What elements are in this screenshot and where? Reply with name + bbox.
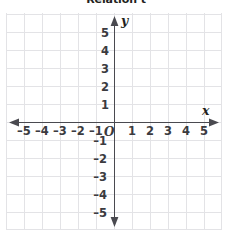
page-title: Relation t bbox=[0, 0, 232, 6]
y-tick-label: 4 bbox=[89, 46, 109, 58]
y-tick-label: –3 bbox=[87, 172, 107, 184]
x-axis-label: x bbox=[202, 105, 209, 118]
y-tick-label: 1 bbox=[89, 100, 109, 112]
grid-and-axes bbox=[6, 13, 222, 230]
x-tick-label: –5 bbox=[14, 126, 34, 138]
y-tick-label: –4 bbox=[87, 190, 107, 202]
y-axis-top-arrowhead bbox=[111, 16, 119, 26]
x-tick-label: 2 bbox=[140, 126, 160, 138]
y-tick-label: –2 bbox=[87, 154, 107, 166]
y-axis-bottom-arrowhead bbox=[111, 217, 119, 227]
x-tick-label: 5 bbox=[194, 126, 214, 138]
y-tick-label: 5 bbox=[89, 28, 109, 40]
coordinate-plane-figure: Relation t bbox=[0, 0, 232, 236]
x-tick-label: 4 bbox=[176, 126, 196, 138]
x-tick-label: –4 bbox=[32, 126, 52, 138]
y-axis-label: y bbox=[121, 15, 128, 28]
x-tick-label: –3 bbox=[50, 126, 70, 138]
plot-area: y x O –5 –4 –3 –2 –1 1 2 3 4 5 5 4 3 2 1… bbox=[6, 13, 222, 230]
y-tick-label: 2 bbox=[89, 82, 109, 94]
y-tick-label: 3 bbox=[89, 64, 109, 76]
x-tick-label: 3 bbox=[158, 126, 178, 138]
y-tick-label: –1 bbox=[87, 136, 107, 148]
y-tick-label: –5 bbox=[87, 208, 107, 220]
x-tick-label: 1 bbox=[122, 126, 142, 138]
y-axis bbox=[111, 16, 119, 227]
x-tick-label: –2 bbox=[68, 126, 88, 138]
